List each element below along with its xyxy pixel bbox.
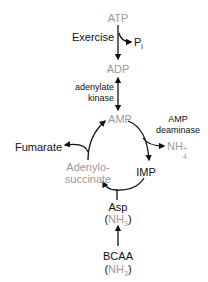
pi-label: Pi — [134, 36, 143, 53]
adenylate-text: adenylate — [72, 82, 114, 93]
kinase-text: kinase — [72, 93, 114, 104]
fumarate-label: Fumarate — [15, 141, 62, 153]
bcaa-nh3-text: NH — [108, 263, 124, 275]
bcaa-nh3-label: (NH3) — [104, 263, 131, 280]
asp-nh3-label: (NH3) — [104, 213, 131, 230]
succinate-text: succinate — [65, 173, 111, 185]
nh4-label: NH+4 — [167, 140, 188, 152]
nh4-subscript: 4 — [183, 151, 187, 163]
atp-label: ATP — [108, 12, 129, 24]
pi-branch-arrow — [119, 33, 131, 42]
adenylosuccinate-to-amp-arrow — [88, 121, 105, 160]
asp-nh3-text: NH — [108, 213, 124, 225]
asp-paren-close: ) — [128, 213, 132, 225]
asp-label: Asp — [109, 201, 128, 213]
adenylo-text: Adenylo- — [65, 161, 111, 173]
fumarate-branch-arrow — [65, 144, 88, 152]
amp-deaminase-amp-text: AMP — [156, 114, 200, 125]
amp-deaminase-label: AMP deaminase — [156, 114, 200, 136]
deaminase-text: deaminase — [156, 125, 200, 136]
adp-label: ADP — [107, 63, 130, 75]
exercise-label: Exercise — [72, 31, 114, 43]
bcaa-paren-close: ) — [128, 263, 132, 275]
adenylosuccinate-label: Adenylo- succinate — [65, 161, 111, 185]
bcaa-label: BCAA — [103, 250, 133, 262]
nh4-text: NH — [167, 140, 183, 152]
pi-subscript: i — [141, 43, 143, 50]
amp-label: AMP — [108, 113, 132, 125]
imp-label: IMP — [136, 166, 156, 178]
adenylate-kinase-label: adenylate kinase — [72, 82, 114, 104]
